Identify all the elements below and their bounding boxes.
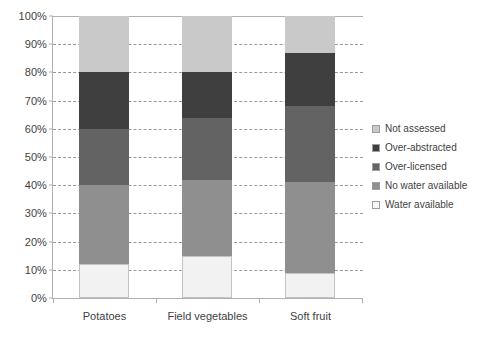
legend-item-label: Over-abstracted (385, 142, 457, 153)
y-axis-tick-label: 10% (25, 264, 47, 276)
y-axis-tick-label: 50% (25, 151, 47, 163)
legend-item-not-assessed[interactable]: Not assessed (372, 123, 476, 134)
legend-item-water-available[interactable]: Water available (372, 199, 476, 210)
stacked-bar[interactable] (182, 16, 232, 298)
bar-segment-water-available[interactable] (182, 256, 232, 298)
bar-group-field-vegetables[interactable] (156, 16, 259, 298)
legend-item-no-water-available[interactable]: No water available (372, 180, 476, 191)
stacked-bar-chart: 100% 90% 80% 70% 60% 50% 40% 30% 20% 10%… (0, 0, 477, 337)
x-axis-label-potatoes: Potatoes (83, 310, 126, 322)
bar-segment-over-abstracted[interactable] (79, 72, 129, 128)
bar-segment-over-licensed[interactable] (79, 129, 129, 185)
bar-segment-no-water-available[interactable] (182, 180, 232, 256)
x-tick-mark-2 (259, 298, 260, 303)
y-axis-tick-label: 20% (25, 236, 47, 248)
legend-item-label: Over-licensed (385, 161, 447, 172)
legend-swatch-icon (372, 144, 380, 152)
plot-area: 100% 90% 80% 70% 60% 50% 40% 30% 20% 10%… (52, 16, 362, 299)
bar-segment-not-assessed[interactable] (182, 16, 232, 72)
legend-swatch-icon (372, 201, 380, 209)
x-axis-label-field-vegetables: Field vegetables (167, 310, 247, 322)
legend-item-label: Not assessed (385, 123, 446, 134)
bar-group-soft-fruit[interactable] (259, 16, 362, 298)
bar-segment-not-assessed[interactable] (285, 16, 335, 53)
legend-item-label: Water available (385, 199, 454, 210)
bar-segment-over-licensed[interactable] (182, 118, 232, 180)
bar-group-potatoes[interactable] (53, 16, 156, 298)
x-axis-label-soft-fruit: Soft fruit (290, 310, 331, 322)
bar-segment-no-water-available[interactable] (285, 182, 335, 272)
stacked-bar[interactable] (79, 16, 129, 298)
y-axis-tick-label: 0% (31, 292, 47, 304)
y-axis-tick-label: 60% (25, 123, 47, 135)
legend-item-label: No water available (385, 180, 467, 191)
x-tick-mark-1 (156, 298, 157, 303)
stacked-bar[interactable] (285, 16, 335, 298)
x-tick-mark-0 (53, 298, 54, 303)
y-axis-tick-label: 30% (25, 207, 47, 219)
legend-swatch-icon (372, 125, 380, 133)
legend-item-over-abstracted[interactable]: Over-abstracted (372, 142, 476, 153)
y-axis-tick-label: 80% (25, 66, 47, 78)
y-axis-tick-label: 90% (25, 38, 47, 50)
bar-segment-over-abstracted[interactable] (285, 53, 335, 107)
bar-segment-no-water-available[interactable] (79, 185, 129, 264)
legend-swatch-icon (372, 182, 380, 190)
bar-segment-over-abstracted[interactable] (182, 72, 232, 117)
bar-segment-water-available[interactable] (285, 273, 335, 298)
bar-segment-not-assessed[interactable] (79, 16, 129, 72)
chart-legend: Not assessed Over-abstracted Over-licens… (372, 123, 476, 218)
x-tick-mark-3 (362, 298, 363, 303)
y-axis-tick-label: 100% (18, 10, 47, 22)
bar-segment-over-licensed[interactable] (285, 106, 335, 182)
y-axis-tick-label: 40% (25, 179, 47, 191)
y-axis-tick-label: 70% (25, 95, 47, 107)
legend-swatch-icon (372, 163, 380, 171)
legend-item-over-licensed[interactable]: Over-licensed (372, 161, 476, 172)
bar-segment-water-available[interactable] (79, 264, 129, 298)
